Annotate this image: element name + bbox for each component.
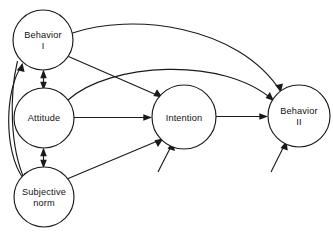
arrow-head-icon [40,148,47,157]
edge-behavior-i-to-intention [69,57,163,98]
edge-attitude-to-intention [74,114,152,121]
diagram-svg: Behavior I Attitude Subjective norm Inte… [0,0,333,232]
edge-behavior-i-to-behavior-ii [73,24,284,92]
node-label-line1: Intention [166,113,203,123]
node-label-line2: I [42,41,45,51]
arrow-head-icon [40,70,47,79]
node-behavior-ii[interactable]: Behavior II [268,85,330,147]
node-label-line1: Subjective [22,187,66,197]
node-subjective-norm[interactable]: Subjective norm [14,167,74,227]
edge-external-to-behavior-ii [271,141,288,172]
edge-line [67,139,164,180]
arrow-head-icon [17,63,25,72]
node-label-line2: II [296,117,301,127]
path-diagram-canvas: Behavior I Attitude Subjective norm Inte… [0,0,333,232]
node-intention[interactable]: Intention [152,85,216,149]
node-label-line1: Behavior [24,30,61,40]
edge-subjective-norm-to-intention [67,139,164,180]
edge-intention-to-behavior-ii [216,113,268,120]
edge-line [69,57,163,98]
node-label-line1: Behavior [280,106,317,116]
node-attitude[interactable]: Attitude [14,88,74,148]
arrow-head-icon [259,113,268,120]
arrow-head-icon [143,114,152,121]
edge-attitude-subjective-norm [40,148,47,169]
node-label-line2: norm [33,198,55,208]
edge-line [73,24,282,92]
edge-behavior-i-attitude [40,70,47,91]
node-label-line1: Attitude [28,113,60,123]
node-behavior-i[interactable]: Behavior I [13,10,73,70]
